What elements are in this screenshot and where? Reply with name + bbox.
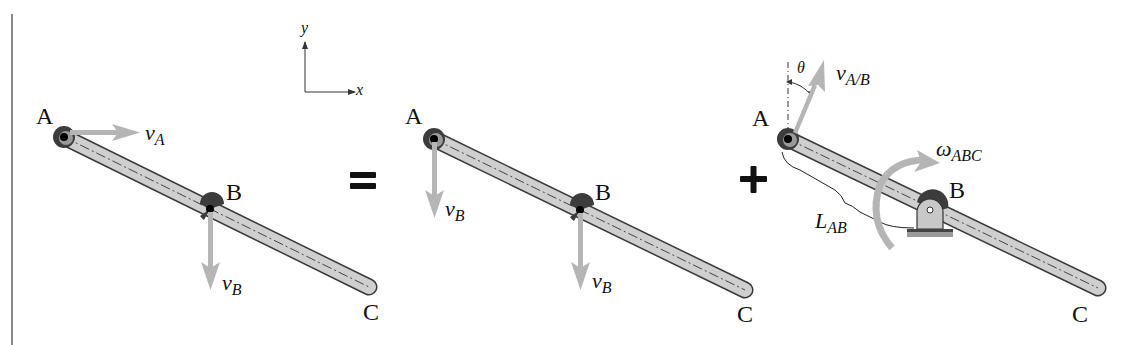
point-a-label: A <box>36 104 53 128</box>
panel-general-motion <box>53 124 369 290</box>
theta-label: θ <box>797 60 805 76</box>
point-c-label: C <box>737 302 753 326</box>
point-a-label: A <box>752 106 769 130</box>
velocity-b-at-b-label: vB <box>592 270 612 296</box>
velocity-a-label: vA <box>145 122 165 148</box>
velocity-vector-b <box>201 212 220 290</box>
y-axis-label: y <box>301 20 308 36</box>
coordinate-axes <box>305 42 355 92</box>
velocity-a-relative-b-label: vA/B <box>836 62 870 88</box>
velocity-vector-b-at-a <box>425 142 444 218</box>
length-ab-label: LAB <box>815 210 847 236</box>
angular-velocity-label: ωABC <box>936 138 982 164</box>
velocity-vector-b-at-b <box>571 213 590 290</box>
velocity-b-label: vB <box>222 272 242 298</box>
point-b-label: B <box>949 178 965 202</box>
point-c-label: C <box>1072 302 1088 326</box>
x-axis-label: x <box>356 82 363 98</box>
panel-translation <box>423 128 745 290</box>
equals-operator-icon <box>350 172 376 189</box>
velocity-b-at-a-label: vB <box>445 198 465 224</box>
point-b-label: B <box>226 180 242 204</box>
theta-arc <box>789 82 811 95</box>
panel-rotation <box>777 60 1098 288</box>
diagram-canvas <box>0 0 1127 345</box>
plus-operator-icon <box>740 166 767 193</box>
point-c-label: C <box>363 300 379 324</box>
point-a-label: A <box>405 104 422 128</box>
point-b-label: B <box>595 180 611 204</box>
